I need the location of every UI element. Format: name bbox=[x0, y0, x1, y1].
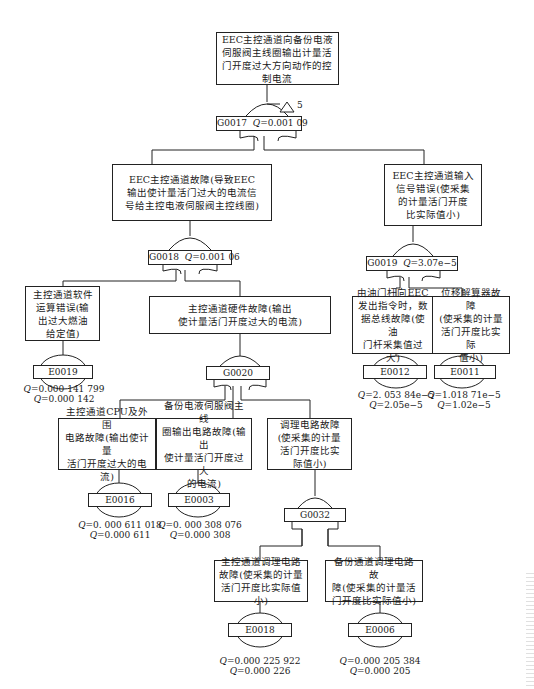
top-event-line: 制电流 bbox=[222, 72, 333, 85]
event-label-e0011: E0011 bbox=[434, 365, 496, 379]
event-box-data-bus-fault: 由油门杆向EEC 发出指令时，数 据总线故障(使油 门杆采集值过大) bbox=[352, 296, 434, 354]
gate-label-g0017: G0017 Q=0.001 09 bbox=[216, 116, 302, 131]
probability-e0006: Q=0.000 205 384 Q=0.000 205 bbox=[332, 656, 428, 676]
probability-e0011: Q=1.018 71e−5 Q=1.02e−5 bbox=[418, 390, 510, 410]
probability-e0019: Q=0.000 141 799 Q=0.000 142 bbox=[18, 384, 110, 404]
event-label-e0003: E0003 bbox=[168, 493, 230, 507]
top-event-box: EEC主控通道向备份电液 伺服阀主线圈输出计量活 门开度过大方向动作的控 制电流 bbox=[216, 32, 339, 85]
event-label-e0018: E0018 bbox=[228, 623, 292, 637]
top-event-line: EEC主控通道向备份电液 bbox=[222, 33, 333, 46]
event-box-input-signal-error: EEC主控通道输入 信号错误(使采集 的计量活门开度 比实际值小) bbox=[384, 164, 482, 226]
top-event-line: 门开度过大方向动作的控 bbox=[222, 59, 333, 72]
event-box-backup-conditioning-fault: 备份通道调理电路故 障(使采集的计量活 门开度比实际值小) bbox=[325, 560, 423, 602]
event-box-software-error: 主控通道软件 运算错误(输 出过大燃油 给定值) bbox=[25, 286, 100, 341]
page-edge-marks bbox=[526, 570, 534, 689]
gate-label-g0018: G0018 Q=0.001 06 bbox=[148, 250, 232, 265]
event-label-e0006: E0006 bbox=[348, 623, 412, 637]
event-box-hardware-fault: 主控通道硬件故障(输出 使计量活门开度过大的电流) bbox=[149, 296, 331, 334]
event-box-output-circuit-fault: 备份电液伺服阀主线 圈输出电路故障(输出 使计量活门开度过大 的电流) bbox=[156, 418, 252, 470]
probability-e0018: Q=0.000 225 922 Q=0.000 226 bbox=[212, 656, 308, 676]
transfer-number: 5 bbox=[297, 100, 303, 110]
event-box-cpu-fault: 主控通道CPU及外围 电路故障(输出使计量 活门开度过大的电流) bbox=[58, 418, 156, 470]
gate-label-g0020: G0020 bbox=[206, 366, 270, 380]
event-box-eec-main-channel-fault: EEC主控通道故障(导致EEC 输出使计量活门过大的电流信 号给主控电液伺服阀主… bbox=[112, 164, 272, 221]
probability-e0003: Q=0. 000 308 076 Q=0.000 308 bbox=[152, 520, 248, 540]
event-label-e0019: E0019 bbox=[33, 365, 93, 379]
top-event-line: 伺服阀主线圈输出计量活 bbox=[222, 46, 333, 59]
event-box-conditioning-circuit-fault: 调理电路故障 (使采集的计量 活门开度比实 际值小) bbox=[267, 418, 352, 470]
event-label-e0012: E0012 bbox=[363, 365, 427, 379]
event-box-main-conditioning-fault: 主控通道调理电路 故障(使采集的计量 活门开度比实际值小) bbox=[214, 560, 308, 602]
event-box-resolver-fault: 位移解算器故障 (使采集的计量 活门开度比实际 值小) bbox=[432, 296, 510, 354]
gate-label-g0032: G0032 bbox=[284, 508, 346, 522]
gate-label-g0019: G0019 Q=3.07e−5 bbox=[366, 256, 458, 271]
event-label-e0016: E0016 bbox=[88, 493, 152, 507]
